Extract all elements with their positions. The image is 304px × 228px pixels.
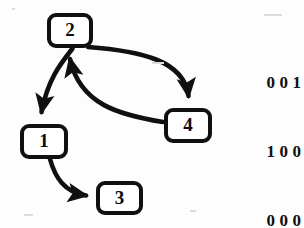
matrix-cell: 0 — [291, 140, 304, 163]
matrix-cell: 1 — [265, 140, 278, 163]
graph-node-3[interactable]: 3 — [96, 181, 143, 215]
figure-canvas: 2 1 3 4 0010 1001 0000 0100 — [0, 0, 303, 228]
scan-speck — [12, 8, 15, 10]
matrix-cell: 0 — [265, 209, 278, 228]
graph-node-3-label: 3 — [115, 188, 125, 207]
matrix-cell: 1 — [291, 71, 304, 94]
graph-node-2[interactable]: 2 — [47, 13, 93, 48]
matrix-row: 1001 — [236, 117, 303, 186]
matrix-row: 0000 — [236, 186, 303, 228]
scan-speck — [264, 14, 282, 16]
graph-node-4-label: 4 — [183, 115, 193, 134]
scan-speck — [24, 214, 33, 216]
graph-node-1-label: 1 — [39, 131, 49, 150]
matrix-cell: 0 — [278, 209, 291, 228]
matrix-cell: 0 — [278, 140, 291, 163]
matrix-cell: 0 — [291, 209, 304, 228]
graph-node-1[interactable]: 1 — [20, 124, 68, 159]
graph-node-2-label: 2 — [65, 20, 75, 39]
graph-node-4[interactable]: 4 — [164, 108, 212, 143]
edge-4-to-2 — [70, 59, 163, 122]
adjacency-matrix: 0010 1001 0000 0100 — [236, 48, 303, 228]
matrix-cell: 0 — [265, 71, 278, 94]
scan-speck — [152, 62, 164, 64]
edge-2-to-1 — [42, 49, 73, 113]
matrix-row: 0010 — [236, 48, 303, 117]
edge-1-to-3 — [50, 159, 86, 196]
scan-speck — [190, 210, 196, 212]
edge-2-to-4 — [88, 47, 189, 96]
matrix-cell: 0 — [278, 71, 291, 94]
